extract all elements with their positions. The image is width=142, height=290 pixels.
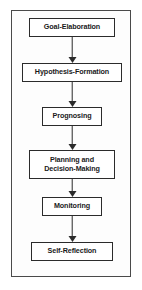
arrow-head <box>68 144 76 150</box>
node-self-reflection: Self-Reflection <box>31 242 113 261</box>
node-label: Planning and Decision-Making <box>44 156 100 173</box>
node-prognosing: Prognosing <box>42 107 102 126</box>
arrow-head <box>68 57 76 63</box>
node-label: Hypothesis-Formation <box>35 68 109 77</box>
node-label: Monitoring <box>54 202 90 211</box>
arrow-down-icon <box>67 216 78 242</box>
node-hypothesis-formation: Hypothesis-Formation <box>22 63 122 82</box>
arrow-down-icon <box>67 179 78 197</box>
node-label: Self-Reflection <box>48 247 97 256</box>
flowchart-diagram: Goal-ElaborationHypothesis-FormationProg… <box>0 0 142 290</box>
node-label: Prognosing <box>53 112 92 121</box>
arrow-head <box>68 236 76 242</box>
node-goal-elaboration: Goal-Elaboration <box>29 18 115 37</box>
arrow-down-icon <box>67 82 78 107</box>
arrow-head <box>68 191 76 197</box>
node-monitoring: Monitoring <box>42 197 102 216</box>
node-label: Goal-Elaboration <box>44 23 100 32</box>
arrow-shaft <box>71 216 73 237</box>
arrow-head <box>68 101 76 107</box>
arrow-shaft <box>71 126 73 145</box>
arrow-down-icon <box>67 126 78 150</box>
node-planning-and-decision-making: Planning and Decision-Making <box>29 150 115 179</box>
arrow-down-icon <box>67 37 78 63</box>
arrow-shaft <box>71 82 73 102</box>
arrow-shaft <box>71 37 73 58</box>
